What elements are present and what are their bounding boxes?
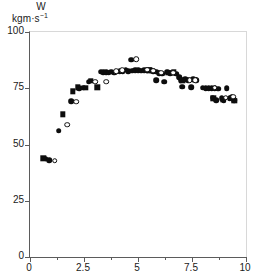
x-axis-tick-label: 10	[230, 262, 257, 273]
data-point-open-circle	[144, 67, 150, 73]
data-point-filled-circle	[153, 77, 159, 83]
data-point-filled-circle	[188, 84, 194, 90]
data-point-filled-square	[41, 156, 46, 161]
data-point-filled-square	[210, 95, 215, 100]
data-point-open-circle	[52, 158, 58, 164]
data-point-open-circle	[64, 122, 70, 128]
y-axis-tick-label: 100	[0, 25, 24, 36]
data-point-open-circle	[92, 79, 98, 85]
data-point-open-circle	[223, 95, 229, 101]
y-axis-tick-label: 0	[0, 250, 24, 261]
x-axis-minor-tick	[111, 257, 112, 260]
data-point-filled-square	[60, 112, 65, 117]
x-axis-tick-label: 2.5	[68, 262, 98, 273]
y-axis-tick-label: 75	[0, 81, 24, 92]
data-point-open-circle	[170, 70, 176, 76]
x-axis-minor-tick	[57, 257, 58, 260]
data-point-open-circle	[230, 94, 236, 100]
data-point-open-circle	[212, 85, 218, 91]
y-axis-tick	[25, 32, 30, 33]
data-point-filled-circle	[56, 128, 62, 134]
x-axis-tick-label: 7.5	[176, 262, 206, 273]
x-axis-minor-tick	[165, 257, 166, 260]
data-point-filled-square	[180, 77, 185, 82]
data-point-open-circle	[150, 68, 156, 74]
y-axis-tick-label: 25	[0, 194, 24, 205]
x-axis-tick-label: 5	[122, 262, 152, 273]
data-point-filled-square	[75, 85, 80, 90]
data-point-filled-square	[95, 84, 100, 89]
y-axis-caption-unit: kgm·s	[12, 14, 40, 25]
chart-figure: W kgm·s−1 025507510002.557.510	[0, 0, 257, 278]
y-axis-caption-line2: kgm·s−1	[12, 12, 122, 25]
data-point-open-circle	[193, 77, 199, 83]
y-axis-tick	[25, 145, 30, 146]
y-axis-tick-label: 50	[0, 138, 24, 149]
data-point-open-circle	[73, 99, 79, 105]
data-point-open-circle	[119, 67, 125, 73]
y-axis-caption: W kgm·s−1	[12, 1, 122, 25]
data-point-open-circle	[103, 79, 109, 85]
y-axis-caption-exponent: −1	[40, 12, 48, 19]
data-point-open-circle	[159, 70, 165, 76]
data-markers-layer	[30, 32, 246, 257]
x-axis-minor-tick	[219, 257, 220, 260]
x-axis-tick-label: 0	[14, 262, 44, 273]
data-point-filled-square	[83, 85, 88, 90]
data-point-filled-circle	[179, 84, 185, 90]
data-point-filled-circle	[161, 79, 167, 85]
data-point-filled-circle	[224, 86, 230, 92]
y-axis-tick	[25, 88, 30, 89]
y-axis-tick	[25, 201, 30, 202]
plot-area	[29, 31, 247, 258]
y-axis-caption-line1: W	[12, 1, 70, 12]
data-point-open-circle	[133, 57, 139, 63]
